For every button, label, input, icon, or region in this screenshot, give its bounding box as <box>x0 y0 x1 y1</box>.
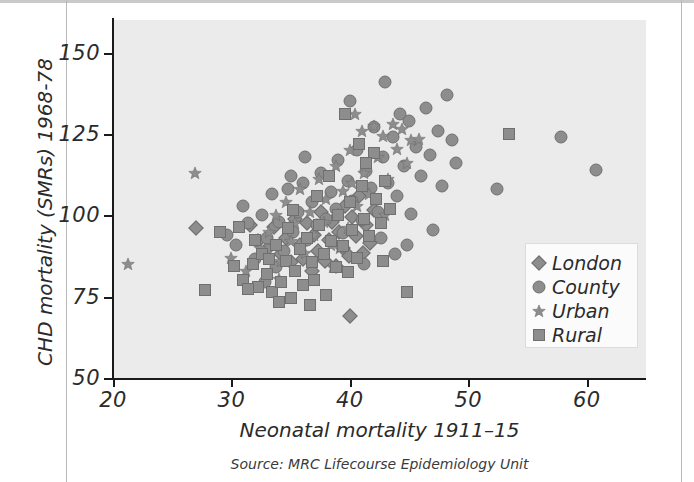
point-star <box>269 208 283 222</box>
point-square <box>287 204 299 216</box>
point-square <box>249 234 261 246</box>
legend-item-label: County <box>552 278 620 297</box>
point-square <box>289 265 301 277</box>
point-square <box>358 213 370 225</box>
point-square <box>353 138 365 150</box>
x-axis-tick-label: 30 <box>218 388 246 412</box>
point-square <box>282 222 294 234</box>
point-star <box>188 166 202 180</box>
point-square <box>344 196 356 208</box>
point-circle <box>374 232 387 245</box>
circle-icon <box>526 276 552 298</box>
point-square <box>339 108 351 120</box>
point-square <box>273 296 285 308</box>
point-square <box>306 256 318 268</box>
x-axis-title: Neonatal mortality 1911–15 <box>113 418 646 442</box>
point-square <box>242 283 254 295</box>
point-star <box>412 132 426 146</box>
point-square <box>337 240 349 252</box>
point-diamond <box>531 255 547 271</box>
point-circle <box>426 223 439 236</box>
point-circle <box>405 207 418 220</box>
point-square <box>311 190 323 202</box>
point-circle <box>533 281 546 294</box>
point-circle <box>298 150 311 163</box>
source-note: Source: MRC Lifecourse Epidemiology Unit <box>113 456 646 472</box>
point-square <box>342 266 354 278</box>
page-rule-right <box>681 0 682 482</box>
point-square <box>313 219 325 231</box>
point-star <box>121 257 135 271</box>
point-circle <box>237 199 250 212</box>
point-square <box>214 226 226 238</box>
point-diamond <box>188 221 204 237</box>
point-circle <box>414 170 427 183</box>
point-circle <box>343 95 356 108</box>
x-axis-tick <box>587 378 589 387</box>
legend: London County Urban Rural <box>525 243 638 348</box>
point-circle <box>400 238 413 251</box>
point-star <box>532 304 546 318</box>
point-diamond <box>342 308 358 324</box>
point-square <box>351 252 363 264</box>
point-square <box>330 261 342 273</box>
point-square <box>332 209 344 221</box>
x-axis-tick <box>113 378 115 387</box>
point-square <box>384 203 396 215</box>
point-square <box>270 239 282 251</box>
x-axis-line <box>112 378 646 380</box>
point-star <box>262 225 276 239</box>
legend-item-county: County <box>526 275 637 299</box>
star-icon <box>526 300 552 322</box>
point-star <box>390 142 404 156</box>
x-axis-tick-label: 60 <box>573 388 601 412</box>
y-axis-tick <box>104 134 113 136</box>
diamond-icon <box>526 252 552 274</box>
point-square <box>325 235 337 247</box>
x-axis-tick <box>350 378 352 387</box>
y-axis-tick <box>104 378 113 380</box>
point-circle <box>445 134 458 147</box>
page-rule-top <box>0 0 694 3</box>
x-axis-tick <box>231 378 233 387</box>
point-circle <box>284 170 297 183</box>
point-square <box>363 230 375 242</box>
point-square <box>375 217 387 229</box>
x-axis-tick <box>468 378 470 387</box>
y-axis-tick <box>104 215 113 217</box>
point-circle <box>450 157 463 170</box>
point-circle <box>379 75 392 88</box>
point-square <box>370 193 382 205</box>
point-square <box>285 292 297 304</box>
figure-container: 50751001251502030405060 CHD mortality (S… <box>0 0 694 482</box>
point-square <box>297 279 309 291</box>
point-star <box>293 182 307 196</box>
page-rule-left <box>66 0 67 482</box>
point-square <box>233 221 245 233</box>
point-star <box>303 205 317 219</box>
point-circle <box>431 124 444 137</box>
legend-item-urban: Urban <box>526 299 637 323</box>
point-square <box>275 276 287 288</box>
point-square <box>263 253 275 265</box>
legend-item-label: London <box>552 254 622 273</box>
point-square <box>308 274 320 286</box>
legend-item-london: London <box>526 251 637 275</box>
point-square <box>356 180 368 192</box>
point-circle <box>424 149 437 162</box>
point-circle <box>590 163 603 176</box>
x-axis-tick-label: 40 <box>336 388 364 412</box>
x-axis-tick-label: 20 <box>99 388 127 412</box>
point-square <box>261 268 273 280</box>
point-star <box>400 156 414 170</box>
y-axis-title: CHD mortality (SMRs) 1968-78 <box>33 47 57 377</box>
y-axis-tick <box>104 297 113 299</box>
point-circle <box>388 248 401 261</box>
legend-item-label: Urban <box>552 302 609 321</box>
x-axis-tick-label: 50 <box>454 388 482 412</box>
legend-item-label: Rural <box>552 326 602 345</box>
y-axis-tick <box>104 53 113 55</box>
point-square <box>377 255 389 267</box>
y-axis-line <box>112 18 114 380</box>
point-square <box>323 170 335 182</box>
